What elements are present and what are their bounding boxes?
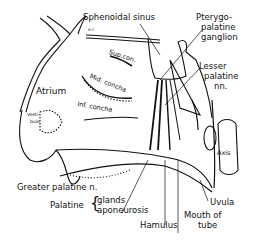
label-er: e.r.: [88, 28, 95, 33]
label-axis: Axis: [217, 150, 231, 157]
label-sphenoidal-sinus: Sphenoidal sinus: [83, 13, 155, 22]
label-aponeurosis: aponeurosis: [97, 206, 149, 215]
label-atrium: Atrium: [36, 87, 66, 96]
label-lesser-palatine-2: palatine: [204, 72, 239, 81]
label-greater-palatine-nerve: Greater palatine n.: [17, 183, 97, 192]
label-vestibule-2: bule: [30, 120, 40, 125]
label-lesser-palatine-1: Lesser: [199, 62, 226, 71]
label-hamulus: Hamulus: [140, 221, 177, 230]
label-uvula: Uvula: [210, 198, 234, 207]
label-mouth-of-tube-2: tube: [198, 221, 217, 230]
label-pterygopalatine-1: Pterygo-: [196, 13, 232, 22]
label-lesser-palatine-3: nn.: [214, 82, 227, 91]
label-glands: glands: [97, 196, 125, 205]
label-vestibule-1: Vesti-: [27, 113, 39, 118]
label-mouth-of-tube-1: Mouth of: [184, 211, 222, 220]
label-pterygopalatine-3: ganglion: [201, 33, 238, 42]
label-palatine: Palatine: [50, 201, 84, 210]
label-pterygopalatine-2: palatine: [201, 23, 236, 32]
